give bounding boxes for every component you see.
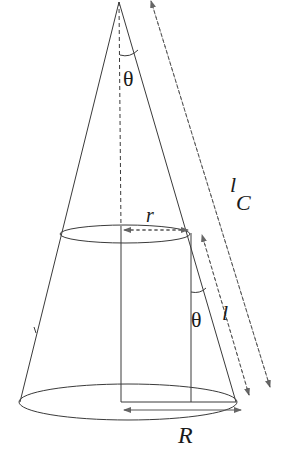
R-label: R xyxy=(177,422,193,448)
axis-dashed xyxy=(119,2,121,230)
r-label: r xyxy=(146,204,154,226)
left-edge-tick xyxy=(34,327,36,333)
lC-label-sub: C xyxy=(236,190,251,215)
cone-diagram: θ θ r R l l C xyxy=(0,0,283,471)
theta-side-label: θ xyxy=(191,307,202,332)
theta-top-label: θ xyxy=(123,66,134,91)
theta-arc-top xyxy=(120,50,138,56)
cone-outline xyxy=(19,2,237,420)
section-ellipse xyxy=(60,225,190,243)
cone-right-edge xyxy=(119,2,236,402)
l-label: l xyxy=(222,300,228,325)
cone-left-edge xyxy=(20,2,119,402)
